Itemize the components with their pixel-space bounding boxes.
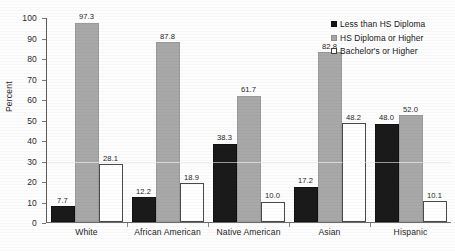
legend-item-label: Bachelor's or Higher <box>340 46 418 56</box>
bar-value-label: 10.0 <box>265 191 280 200</box>
bar-value-label: 48.2 <box>346 113 361 122</box>
bar-value-label: 28.1 <box>103 154 118 163</box>
bar-group-bars: 38.361.710.0 <box>208 18 289 222</box>
bar <box>156 42 180 222</box>
legend-swatch-icon <box>331 21 337 27</box>
y-axis-tick-label: 70 <box>27 75 37 85</box>
bar-value-label: 17.2 <box>298 176 313 185</box>
bar-value-label: 97.3 <box>79 12 94 21</box>
bar-slot: 10.1 <box>423 18 447 222</box>
bar-slot: 97.3 <box>75 18 99 222</box>
legend-item: Bachelor's or Higher <box>331 46 425 56</box>
bar-slot: 10.0 <box>261 18 285 222</box>
chart-figure: Percent 0102030405060708090100 7.797.328… <box>0 0 455 251</box>
bar <box>342 123 366 222</box>
legend-item-label: Less than HS Diploma <box>340 19 425 29</box>
bar <box>423 201 447 222</box>
y-axis-tick-label: 80 <box>27 54 37 64</box>
bar-group-bars: 12.287.818.9 <box>127 18 208 222</box>
x-axis-category-label: Hispanic <box>370 227 451 237</box>
bar <box>51 206 75 222</box>
bar-value-label: 52.0 <box>403 105 418 114</box>
x-axis-category-label: White <box>46 227 127 237</box>
bar-value-label: 10.1 <box>427 191 442 200</box>
bar-slot: 61.7 <box>237 18 261 222</box>
bar <box>213 144 237 223</box>
bar-slot: 38.3 <box>213 18 237 222</box>
y-axis-tick: 0 <box>42 223 46 224</box>
y-axis-tick-label: 20 <box>27 177 37 187</box>
x-axis-category-label: African American <box>127 227 208 237</box>
y-axis-tick-label: 100 <box>22 13 37 23</box>
bar <box>399 115 423 222</box>
x-axis-category-label: Asian <box>289 227 370 237</box>
bar-slot: 18.9 <box>180 18 204 222</box>
bar-slot: 7.7 <box>51 18 75 222</box>
bar-group: 7.797.328.1 <box>46 18 127 222</box>
y-axis-title: Percent <box>4 81 14 112</box>
y-axis-tick-label: 40 <box>27 136 37 146</box>
bar <box>99 164 123 222</box>
bar-group-bars: 7.797.328.1 <box>46 18 127 222</box>
bar <box>261 202 285 223</box>
bar <box>237 96 261 222</box>
legend-item-label: HS Diploma or Higher <box>340 33 423 43</box>
bar-group: 38.361.710.0 <box>208 18 289 222</box>
legend-item: HS Diploma or Higher <box>331 33 425 43</box>
legend-item: Less than HS Diploma <box>331 19 425 29</box>
bar-value-label: 38.3 <box>217 133 232 142</box>
bar <box>75 23 99 222</box>
legend-swatch-icon <box>331 48 337 54</box>
bar-group: 12.287.818.9 <box>127 18 208 222</box>
y-axis-tick-label: 60 <box>27 95 37 105</box>
y-axis-tick-label: 0 <box>32 218 37 228</box>
bar <box>318 52 342 222</box>
bar-value-label: 48.0 <box>379 113 394 122</box>
bar <box>132 197 156 222</box>
bar-value-label: 61.7 <box>241 85 256 94</box>
bar-slot: 12.2 <box>132 18 156 222</box>
bar-value-label: 18.9 <box>184 173 199 182</box>
bar-value-label: 87.8 <box>160 32 175 41</box>
y-axis-tick-label: 90 <box>27 34 37 44</box>
bar-slot: 87.8 <box>156 18 180 222</box>
bar <box>375 124 399 222</box>
bar-slot: 28.1 <box>99 18 123 222</box>
y-axis-tick-label: 30 <box>27 157 37 167</box>
legend: Less than HS DiplomaHS Diploma or Higher… <box>331 19 425 56</box>
x-axis-category-label: Native American <box>208 227 289 237</box>
x-axis-line <box>46 222 451 223</box>
bar-value-label: 12.2 <box>136 187 151 196</box>
bar-value-label: 7.7 <box>57 196 68 205</box>
y-axis-tick-label: 50 <box>27 116 37 126</box>
bar-slot: 17.2 <box>294 18 318 222</box>
legend-swatch-icon <box>331 35 337 41</box>
y-axis-tick-label: 10 <box>27 198 37 208</box>
bar <box>180 183 204 222</box>
bar <box>294 187 318 222</box>
